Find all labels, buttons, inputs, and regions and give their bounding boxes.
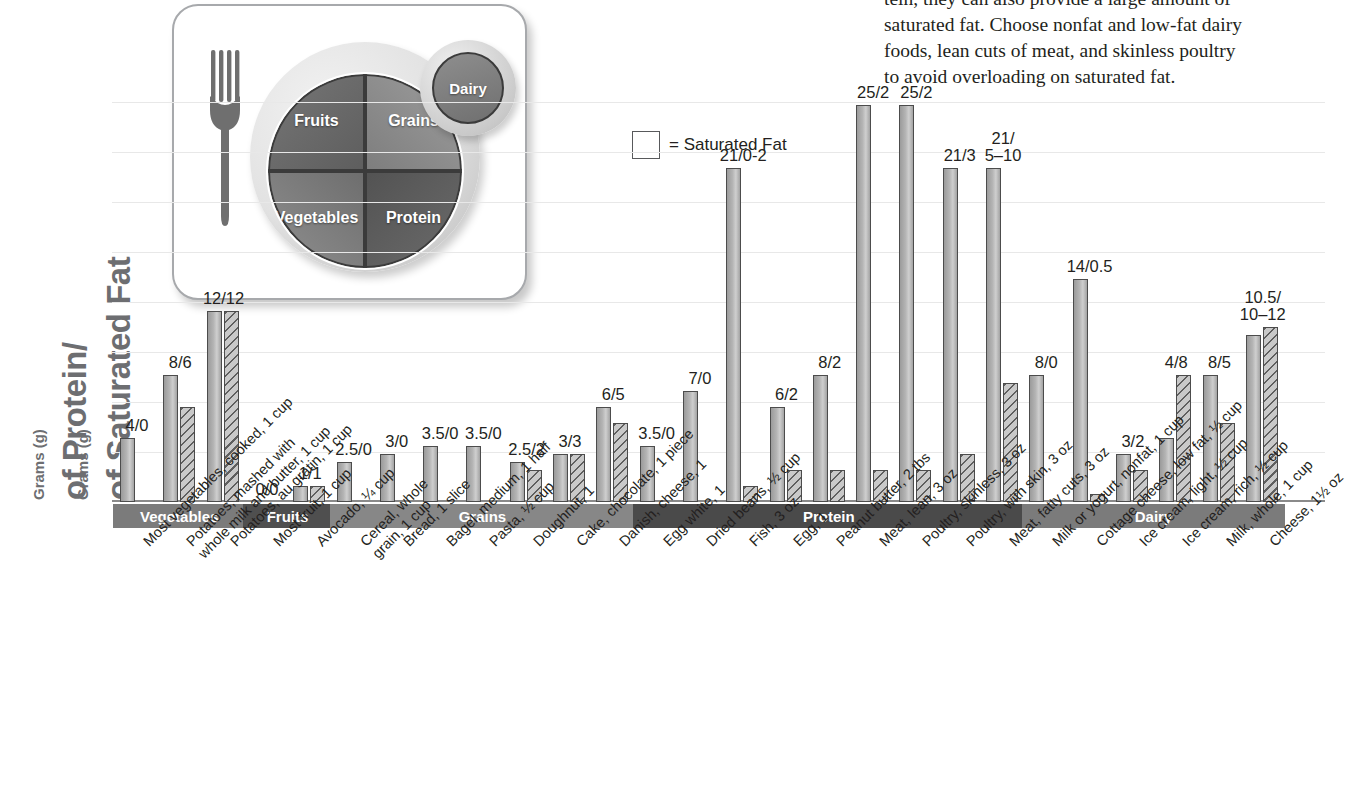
bar-value-label: 8/2 xyxy=(799,354,861,371)
bar-protein[interactable] xyxy=(726,168,741,502)
bar-value-label: 12/12 xyxy=(193,290,255,307)
bar-group[interactable]: 3.5/0 xyxy=(638,60,674,502)
bar-value-label: 25/2 xyxy=(885,84,947,101)
bar-value-label: 14/0.5 xyxy=(1059,258,1121,275)
body-text-line-2: saturated fat. Choose nonfat and low-fat… xyxy=(884,12,1330,38)
y-axis-unit-label-satfat: Grams (g) xyxy=(74,429,91,500)
bar-value-label: 10.5/ 10–12 xyxy=(1232,289,1294,323)
x-axis-labels: Most vegetables, cooked, 1 cupPotatoes, … xyxy=(0,530,1325,802)
bar-protein[interactable] xyxy=(899,105,914,503)
bar-value-label: 7/0 xyxy=(669,370,731,387)
bar-group[interactable]: 3/2 xyxy=(1114,60,1150,502)
bar-value-label: 6/2 xyxy=(756,386,818,403)
bar-protein[interactable] xyxy=(943,168,958,502)
bar-value-label: 21/0-2 xyxy=(712,147,774,164)
bar-protein[interactable] xyxy=(163,375,178,502)
bar-group[interactable]: 21/3 xyxy=(941,60,977,502)
bar-value-label: 8/5 xyxy=(1189,354,1251,371)
y-axis-unit-label-protein: Grams (g) xyxy=(30,429,47,500)
bar-group[interactable]: 25/2 xyxy=(854,60,890,502)
bar-group[interactable]: 8/6 xyxy=(161,60,197,502)
bar-saturated-fat[interactable] xyxy=(830,470,845,502)
bar-protein[interactable] xyxy=(466,446,481,502)
bar-protein[interactable] xyxy=(813,375,828,502)
bar-value-label: 3.5/0 xyxy=(452,425,514,442)
bar-group[interactable]: 4/0 xyxy=(118,60,154,502)
bar-group[interactable]: 25/2 xyxy=(897,60,933,502)
bar-protein[interactable] xyxy=(856,105,871,503)
bar-group[interactable]: 10.5/ 10–12 xyxy=(1244,60,1280,502)
bar-group[interactable]: 8/0 xyxy=(1027,60,1063,502)
bar-group[interactable]: 21/0-2 xyxy=(724,60,760,502)
y-axis-titles: Grams (g) of Protein/ Grams (g) of Satur… xyxy=(0,0,112,500)
bar-group[interactable]: 12/12 xyxy=(205,60,241,502)
bar-group[interactable]: 21/ 5–10 xyxy=(984,60,1020,502)
bar-group[interactable]: 3.5/0 xyxy=(464,60,500,502)
bar-group[interactable]: 8/2 xyxy=(811,60,847,502)
bar-value-label: 21/ 5–10 xyxy=(972,130,1034,164)
bar-group[interactable]: 3/3 xyxy=(551,60,587,502)
bar-protein[interactable] xyxy=(120,438,135,502)
bar-value-label: 4/0 xyxy=(106,417,168,434)
bar-group[interactable]: 6/2 xyxy=(768,60,804,502)
bar-value-label: 6/5 xyxy=(582,386,644,403)
body-text-line-1: tein, they can also provide a large amou… xyxy=(884,0,1330,12)
bar-protein[interactable] xyxy=(986,168,1001,502)
bar-protein[interactable] xyxy=(553,454,568,502)
bar-protein[interactable] xyxy=(596,407,611,502)
bar-value-label: 8/0 xyxy=(1015,354,1077,371)
bar-saturated-fat[interactable] xyxy=(1263,327,1278,502)
bar-saturated-fat[interactable] xyxy=(1176,375,1191,502)
bar-value-label: 8/6 xyxy=(149,354,211,371)
